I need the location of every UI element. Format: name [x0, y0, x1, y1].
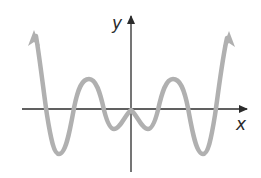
x-axis-label: x [235, 114, 247, 134]
y-axis-label: y [111, 13, 123, 33]
graph: y x [0, 0, 261, 178]
